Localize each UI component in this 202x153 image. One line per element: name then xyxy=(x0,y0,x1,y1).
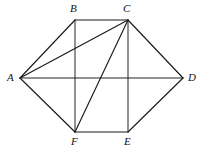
edge-CF xyxy=(75,20,128,132)
edge-DE xyxy=(128,78,183,132)
edge-FA xyxy=(20,78,75,132)
geometry-figure: ABCDEF xyxy=(0,0,202,153)
edge-AC xyxy=(20,20,128,78)
vertex-label-F: F xyxy=(71,136,78,147)
vertex-label-A: A xyxy=(7,72,14,83)
edge-AB xyxy=(20,20,75,78)
figure-canvas xyxy=(0,0,202,153)
vertex-label-C: C xyxy=(123,3,130,14)
vertex-label-E: E xyxy=(124,136,131,147)
edge-CD xyxy=(128,20,183,78)
vertex-label-B: B xyxy=(70,3,77,14)
vertex-label-D: D xyxy=(188,72,196,83)
